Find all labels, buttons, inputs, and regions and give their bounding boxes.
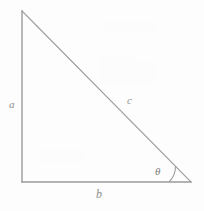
angle-theta-label: θ — [155, 166, 160, 177]
triangle-drawing — [0, 0, 204, 211]
angle-arc — [169, 167, 176, 183]
side-b-label: b — [96, 188, 102, 200]
side-c-label: c — [127, 95, 132, 106]
side-c-hypotenuse-line — [22, 11, 191, 182]
triangle-figure: a b c θ — [0, 0, 204, 211]
side-a-label: a — [9, 99, 15, 110]
